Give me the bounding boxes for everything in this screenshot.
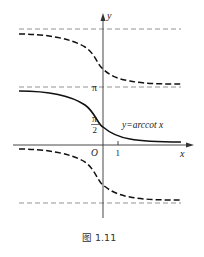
- arccot-figure: y x O 1 π π 2 y=arccot x 图 1.11: [0, 0, 204, 257]
- pi-label: π: [92, 82, 97, 93]
- half-pi-denominator: 2: [93, 125, 98, 135]
- y-axis-label: y: [106, 10, 112, 21]
- figure-caption: 图 1.11: [82, 232, 116, 243]
- origin-label: O: [91, 148, 98, 158]
- curve-label: y=arccot x: [121, 120, 164, 130]
- y-axis-arrow-icon: [101, 13, 106, 21]
- x-axis-label: x: [179, 148, 185, 159]
- arccot-curve: [19, 91, 181, 142]
- x-tick-1-label: 1: [116, 148, 121, 158]
- x-axis-arrow-icon: [186, 143, 194, 148]
- arccot-minus-pi-curve: [19, 149, 181, 200]
- arccot-plus-pi-curve: [19, 34, 181, 84]
- half-pi-numerator: π: [92, 114, 97, 124]
